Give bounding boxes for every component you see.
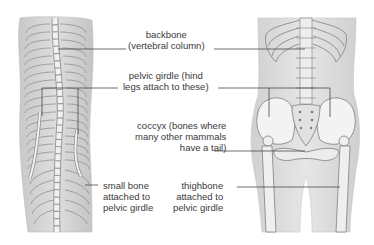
label-pelvic-girdle: pelvic girdle (hind legs attach to these…: [123, 70, 209, 92]
label-thighbone: thighbone attached to pelvic girdle: [173, 180, 223, 213]
label-pelvic-girdle-line1: pelvic girdle (hind: [123, 70, 209, 81]
label-backbone: backbone (vertebral column): [128, 29, 205, 51]
label-thighbone-line1: thighbone: [173, 180, 223, 191]
label-coccyx-line1: coccyx (bones where: [135, 120, 226, 131]
human-skeleton: [251, 18, 360, 232]
label-thighbone-line3: pelvic girdle: [173, 202, 223, 213]
label-coccyx-line3: have a tail): [135, 142, 226, 153]
label-small-bone-line2: attached to: [103, 191, 153, 202]
label-pelvic-girdle-line2: legs attach to these): [123, 81, 209, 92]
label-small-bone: small bone attached to pelvic girdle: [103, 180, 153, 213]
label-backbone-line2: (vertebral column): [128, 40, 205, 51]
vestigial-structures-diagram: backbone (vertebral column) pelvic girdl…: [0, 0, 374, 245]
label-coccyx: coccyx (bones where many other mammals h…: [135, 120, 226, 153]
label-small-bone-line3: pelvic girdle: [103, 202, 153, 213]
label-thighbone-line2: attached to: [173, 191, 223, 202]
label-backbone-line1: backbone: [128, 29, 205, 40]
label-coccyx-line2: many other mammals: [135, 131, 226, 142]
label-small-bone-line1: small bone: [103, 180, 153, 191]
